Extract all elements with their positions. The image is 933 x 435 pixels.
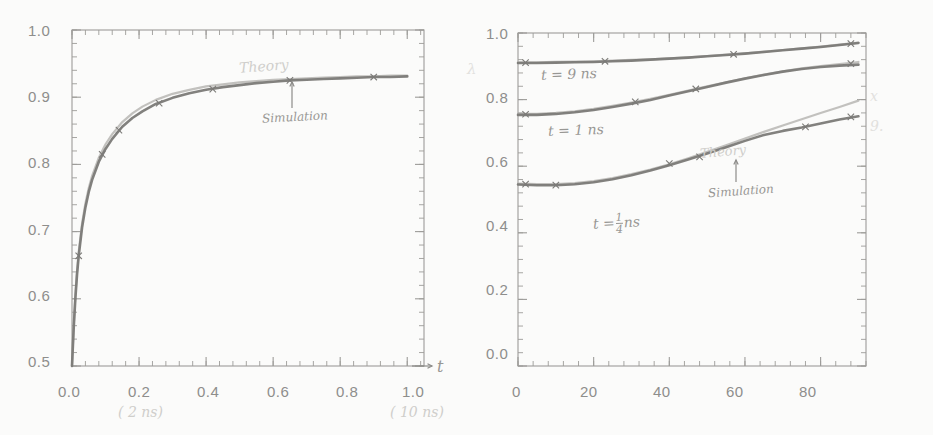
quarter-fraction: 14 [615, 212, 623, 236]
right-ytick-0_0: 0.0 [486, 345, 508, 362]
right-ytick-0_6: 0.6 [486, 153, 508, 170]
figure-page: 1.0 0.9 0.8 0.7 0.6 0.5 0.0 0.2 0.4 0.6 … [0, 0, 933, 435]
fraction-denominator: 4 [616, 223, 624, 235]
left-xunit-note-10ns: ( 10 ns) [390, 404, 444, 420]
series-line-1 [518, 43, 858, 63]
right-xtick-80: 80 [799, 383, 817, 400]
right-xtick-60: 60 [726, 383, 744, 400]
series-line-1 [72, 76, 407, 366]
right-yaxis-pencil-glyph: λ [467, 60, 477, 78]
right-curve-label-9ns: t = 9 ns [541, 65, 597, 83]
series-line-0 [72, 76, 407, 366]
side-mark-upper: x [870, 88, 878, 104]
left-xtick-1_0: 1.0 [402, 383, 424, 400]
left-ytick-0_7: 0.7 [28, 221, 50, 238]
svg-right-group [518, 33, 866, 366]
right-xtick-20: 20 [580, 383, 598, 400]
right-plot-canvas [466, 0, 933, 435]
left-ytick-0_8: 0.8 [28, 154, 50, 171]
left-xtick-0_4: 0.4 [197, 383, 219, 400]
right-xtick-40: 40 [653, 383, 671, 400]
right-ytick-1_0: 1.0 [486, 25, 508, 42]
left-xtick-0_6: 0.6 [267, 383, 289, 400]
right-ytick-0_8: 0.8 [486, 89, 508, 106]
svg-left-group [72, 30, 432, 368]
right-curve-label-1ns: t = 1 ns [548, 121, 604, 139]
series-line-0 [518, 43, 858, 63]
quarter-ns-prefix: t = [593, 215, 616, 232]
left-ytick-0_5: 0.5 [28, 353, 50, 370]
left-xtick-0_8: 0.8 [336, 383, 358, 400]
chart-panel-right: 1.0 0.8 0.6 0.4 0.2 0.0 0 20 40 60 80 λ … [466, 0, 933, 435]
left-plot-canvas [0, 0, 466, 435]
plot-frame [518, 33, 866, 366]
right-ytick-0_4: 0.4 [486, 217, 508, 234]
left-ytick-0_6: 0.6 [28, 287, 50, 304]
plot-frame [72, 30, 424, 366]
chart-panel-left: 1.0 0.9 0.8 0.7 0.6 0.5 0.0 0.2 0.4 0.6 … [0, 0, 466, 435]
left-xaxis-title: t [437, 357, 443, 376]
right-xtick-0: 0 [512, 383, 521, 400]
right-ytick-0_2: 0.2 [486, 281, 508, 298]
side-mark-lower: 9. [870, 118, 883, 134]
left-xtick-0_2: 0.2 [128, 383, 150, 400]
left-ytick-0_9: 0.9 [28, 88, 50, 105]
fraction-numerator: 1 [615, 212, 623, 223]
quarter-ns-suffix: ns [623, 213, 640, 230]
left-xunit-note-2ns: ( 2 ns) [118, 404, 163, 420]
right-curve-label-quarter-ns: t =14ns [592, 211, 640, 237]
left-xtick-0_0: 0.0 [58, 383, 80, 400]
left-ytick-1_0: 1.0 [28, 22, 50, 39]
